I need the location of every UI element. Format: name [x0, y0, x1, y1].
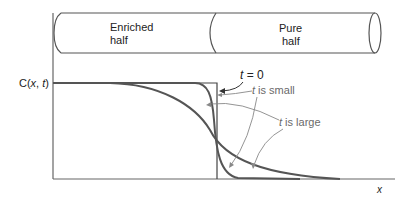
axes [53, 13, 395, 179]
curve-t-small [53, 83, 300, 179]
enriched-label-line1: Enriched [110, 21, 153, 33]
annotation-t-large: t is large [279, 116, 321, 128]
arrow-t-small-icon [217, 91, 257, 168]
arrow-t-zero-icon [219, 82, 243, 94]
enriched-label-line2: half [110, 34, 129, 46]
diffusion-diagram: Enriched half Pure half C(x, t) x t = 0 … [0, 0, 401, 199]
x-axis-label: x [376, 184, 383, 195]
curve-t-large [53, 83, 340, 179]
bar-cylinder [54, 13, 381, 53]
y-axis-label: C(x, t) [19, 77, 49, 89]
step-curve-t0 [53, 83, 217, 179]
annotation-t-zero: t = 0 [240, 68, 264, 82]
pure-label-line1: Pure [279, 22, 302, 34]
pure-label-line2: half [282, 35, 301, 47]
annotation-t-small: t is small [252, 84, 295, 96]
